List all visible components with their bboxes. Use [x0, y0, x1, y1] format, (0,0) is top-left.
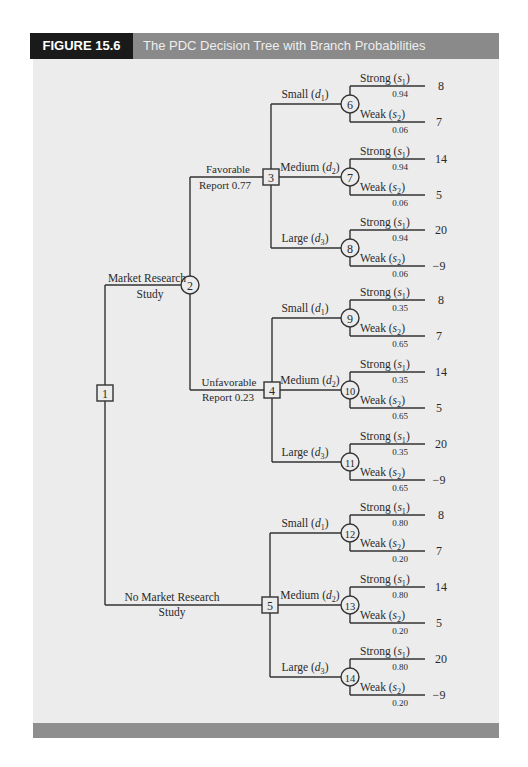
node-number: 14: [345, 673, 356, 684]
branch-label: Report 0.77: [199, 179, 251, 191]
state-label-weak: Weak (s2): [360, 181, 405, 196]
payoff: 20: [435, 652, 447, 666]
node-number: 5: [267, 599, 273, 613]
payoff: 8: [438, 79, 444, 93]
payoff: 14: [435, 365, 447, 379]
state-label-weak: Weak (s2): [360, 108, 405, 123]
probability: 0.65: [392, 411, 408, 421]
probability: 0.35: [392, 375, 408, 385]
probability: 0.06: [392, 269, 408, 279]
state-label-weak: Weak (s2): [360, 252, 405, 267]
node-number: 3: [268, 171, 274, 185]
state-label-strong: Strong (s1): [360, 145, 410, 160]
probability: 0.80: [392, 518, 408, 528]
probability: 0.06: [392, 198, 408, 208]
decision-tree: 12Market ResearchStudyNo Market Research…: [0, 0, 528, 767]
branch-label: Study: [137, 288, 164, 301]
probability: 0.20: [392, 554, 408, 564]
payoff: 8: [438, 508, 444, 522]
payoff: 14: [435, 152, 447, 166]
state-label-strong: Strong (s1): [360, 645, 410, 660]
payoff: 7: [436, 115, 442, 129]
payoff: 7: [436, 329, 442, 343]
state-label-strong: Strong (s1): [360, 358, 410, 373]
payoff: 5: [436, 616, 442, 630]
probability: 0.06: [392, 125, 408, 135]
payoff: −9: [433, 259, 446, 273]
node-number: 7: [347, 171, 353, 185]
node-number: 13: [345, 601, 356, 612]
node-number: 10: [345, 386, 356, 397]
payoff: 5: [436, 188, 442, 202]
state-label-strong: Strong (s1): [360, 430, 410, 445]
decision-branch-label: Medium (d2): [280, 161, 339, 176]
payoff: −9: [433, 473, 446, 487]
decision-branch-label: Large (d3): [282, 232, 329, 247]
probability: 0.80: [392, 662, 408, 672]
payoff: 20: [435, 437, 447, 451]
probability: 0.65: [392, 339, 408, 349]
node-number: 6: [347, 98, 353, 112]
branch-label: Market Research: [108, 272, 186, 284]
payoff: 5: [436, 401, 442, 415]
decision-branch-label: Large (d3): [282, 446, 329, 461]
decision-branch-label: Small (d1): [281, 517, 328, 532]
payoff: 14: [435, 580, 447, 594]
node-number: 2: [187, 279, 193, 293]
branch-label: Favorable: [206, 163, 250, 175]
payoff: 7: [436, 544, 442, 558]
decision-branch-label: Small (d1): [281, 88, 328, 103]
probability: 0.94: [392, 89, 408, 99]
state-label-strong: Strong (s1): [360, 573, 410, 588]
state-label-strong: Strong (s1): [360, 501, 410, 516]
node-number: 8: [347, 242, 353, 256]
decision-branch-label: Medium (d2): [280, 589, 339, 604]
probability: 0.94: [392, 233, 408, 243]
node-number: 11: [345, 458, 355, 469]
state-label-weak: Weak (s2): [360, 681, 405, 696]
probability: 0.35: [392, 447, 408, 457]
state-label-weak: Weak (s2): [360, 609, 405, 624]
probability: 0.80: [392, 590, 408, 600]
branch-label: Study: [159, 606, 186, 619]
branch-label: No Market Research: [124, 591, 219, 603]
probability: 0.35: [392, 303, 408, 313]
decision-branch-label: Medium (d2): [280, 374, 339, 389]
branch-label: Unfavorable: [202, 376, 257, 388]
state-label-weak: Weak (s2): [360, 322, 405, 337]
payoff: 20: [435, 223, 447, 237]
payoff: 8: [438, 293, 444, 307]
decision-branch-label: Small (d1): [281, 302, 328, 317]
probability: 0.20: [392, 698, 408, 708]
node-number: 4: [269, 384, 275, 398]
state-label-weak: Weak (s2): [360, 394, 405, 409]
state-label-weak: Weak (s2): [360, 537, 405, 552]
probability: 0.94: [392, 162, 408, 172]
probability: 0.20: [392, 626, 408, 636]
node-number: 1: [102, 387, 108, 401]
state-label-strong: Strong (s1): [360, 216, 410, 231]
probability: 0.65: [392, 483, 408, 493]
state-label-weak: Weak (s2): [360, 466, 405, 481]
state-label-strong: Strong (s1): [360, 286, 410, 301]
branch-label: Report 0.23: [202, 391, 254, 403]
payoff: −9: [433, 688, 446, 702]
node-number: 12: [345, 529, 356, 540]
decision-branch-label: Large (d3): [282, 661, 329, 676]
state-label-strong: Strong (s1): [360, 72, 410, 87]
node-number: 9: [347, 312, 353, 326]
